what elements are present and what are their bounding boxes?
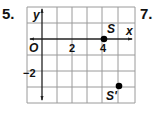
point-s [101,36,108,43]
y-axis-label: y [32,8,41,22]
x-axis-label: x [125,24,134,38]
y-tick-neg2: −2 [23,67,36,79]
point-s-prime-label: S' [106,89,118,103]
y-axis-arrow-down-icon [41,96,44,101]
x-tick-4: 4 [100,42,107,54]
x-tick-2: 2 [69,42,75,54]
point-s-label: S [107,22,115,36]
origin-label: O [29,41,39,55]
y-axis-arrow-up-icon [41,8,44,13]
coordinate-grid: y x O 2 4 −2 S S' [0,0,154,118]
